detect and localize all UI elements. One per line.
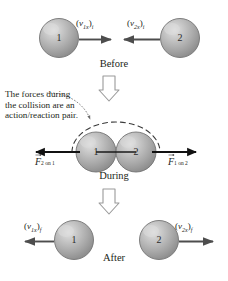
flow-arrow-top <box>99 76 119 101</box>
panel-label-after: After <box>0 252 228 263</box>
force-label-1-on-2: F1 on 2 <box>168 156 188 167</box>
force-subscript: 1 on 2 <box>174 160 188 166</box>
collision-diagram <box>0 0 228 281</box>
figure-canvas: 1 2 (v1x)i (v2x)i Before The forces duri… <box>0 0 228 281</box>
vector-arrow-overbar <box>168 153 175 157</box>
force-vector-symbol: F <box>35 156 41 167</box>
flow-arrow-bottom <box>99 189 119 214</box>
velocity-label-1-after: (v1x)f <box>24 221 41 233</box>
force-subscript: 2 on 1 <box>41 160 55 166</box>
velocity-label-2-after: (v2x)f <box>175 221 192 233</box>
force-vector-symbol: F <box>168 156 174 167</box>
force-label-2-on-1: F2 on 1 <box>35 156 55 167</box>
v-outer-subscript: f <box>40 227 42 233</box>
ball-2-number-before: 2 <box>173 32 187 43</box>
force-symbol: F <box>35 156 41 167</box>
velocity-label-2-before: (v2x)i <box>127 18 144 30</box>
v-outer-subscript: i <box>143 24 145 30</box>
ball-2-number-during: 2 <box>129 146 143 157</box>
v-outer-subscript: i <box>92 24 94 30</box>
ball-1-number-after: 1 <box>67 234 81 245</box>
ball-1-number-during: 1 <box>89 146 103 157</box>
ball-2-number-after: 2 <box>152 234 166 245</box>
vector-arrow-overbar <box>35 153 42 157</box>
ball-1-number-before: 1 <box>52 32 66 43</box>
force-symbol: F <box>168 156 174 167</box>
collision-note: The forces during the collision are an a… <box>5 89 83 121</box>
panel-label-before: Before <box>0 58 228 69</box>
v-outer-subscript: f <box>191 227 193 233</box>
panel-label-during: During <box>0 170 228 181</box>
velocity-label-1-before: (v1x)i <box>76 18 93 30</box>
